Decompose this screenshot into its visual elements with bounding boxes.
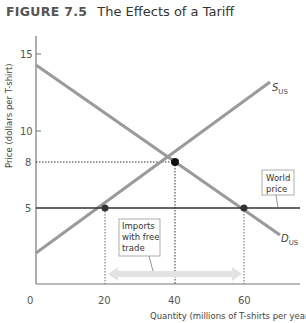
domestic-consumption-point xyxy=(241,205,248,212)
y-axis-label: Price (dollars per T-shirt) xyxy=(4,63,14,168)
svg-text:Imports: Imports xyxy=(122,221,155,231)
x-tick-label-20: 20 xyxy=(98,295,111,306)
demand-label: DUS xyxy=(281,233,299,247)
svg-text:price: price xyxy=(266,184,287,194)
y-tick-label-5: 5 xyxy=(25,203,31,214)
svg-text:World: World xyxy=(266,173,290,183)
svg-text:with free: with free xyxy=(122,232,160,242)
x-tick-label-0: 0 xyxy=(27,295,33,306)
supply-label: SUS xyxy=(272,82,288,96)
tariff-chart: 15 10 8 5 Price (dollars per T-shirt) 0 … xyxy=(0,0,306,323)
x-tick-label-60: 60 xyxy=(238,295,251,306)
world-price-callout: World price xyxy=(262,170,294,208)
y-tick-label-10: 10 xyxy=(20,126,33,137)
y-tick-label-15: 15 xyxy=(20,49,33,60)
domestic-production-point xyxy=(102,205,109,212)
y-tick-label-8: 8 xyxy=(25,157,31,168)
svg-text:trade: trade xyxy=(122,243,145,253)
x-axis-label: Quantity (millions of T-shirts per year) xyxy=(150,311,306,321)
equilibrium-point xyxy=(171,158,179,166)
imports-callout: Imports with free trade xyxy=(119,219,160,271)
x-tick-label-40: 40 xyxy=(168,295,181,306)
imports-arrow xyxy=(108,267,242,281)
